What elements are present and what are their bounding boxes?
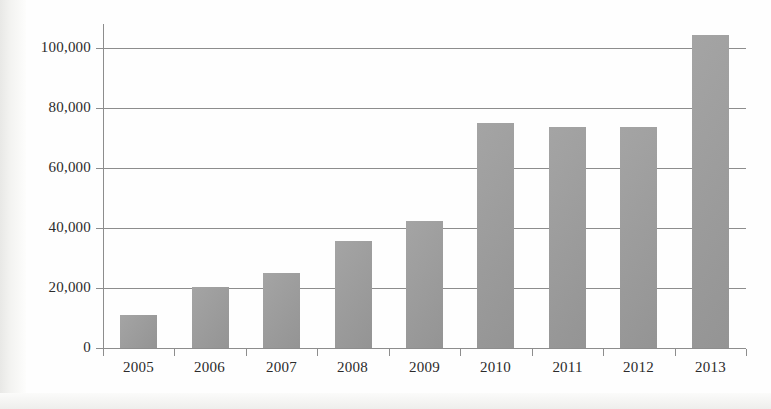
y-axis-tick bbox=[96, 48, 104, 49]
bar-2008 bbox=[335, 241, 372, 348]
bar-2007 bbox=[263, 273, 300, 348]
y-axis-label: 40,000 bbox=[1, 220, 91, 235]
bar-2006 bbox=[192, 287, 229, 348]
y-axis-label: 100,000 bbox=[1, 40, 91, 55]
y-axis-tick bbox=[96, 288, 104, 289]
x-axis-label-2006: 2006 bbox=[174, 360, 245, 375]
gridline bbox=[103, 48, 746, 49]
y-axis-label: 20,000 bbox=[1, 280, 91, 295]
y-axis-tick bbox=[96, 168, 104, 169]
x-axis-label-2008: 2008 bbox=[317, 360, 388, 375]
bar-2009 bbox=[406, 221, 443, 348]
x-axis-tick bbox=[317, 349, 318, 356]
x-axis-tick bbox=[389, 349, 390, 356]
x-axis-tick bbox=[174, 349, 175, 356]
bar-2005 bbox=[120, 315, 157, 348]
y-axis-label: 60,000 bbox=[1, 160, 91, 175]
y-axis-tick bbox=[96, 108, 104, 109]
x-axis-tick bbox=[246, 349, 247, 356]
x-axis-tick bbox=[532, 349, 533, 356]
y-axis-label: 80,000 bbox=[1, 100, 91, 115]
y-axis-label: 0 bbox=[1, 340, 91, 355]
y-axis-line bbox=[103, 24, 104, 349]
chart-page: 020,00040,00060,00080,000100,000 2005200… bbox=[0, 0, 771, 409]
x-axis-label-2005: 2005 bbox=[103, 360, 174, 375]
x-axis-label-2011: 2011 bbox=[532, 360, 603, 375]
x-axis-tick bbox=[746, 349, 747, 356]
y-axis-tick bbox=[96, 228, 104, 229]
x-axis-tick bbox=[675, 349, 676, 356]
bar-2011 bbox=[549, 127, 586, 348]
x-axis-tick bbox=[460, 349, 461, 356]
bar-chart-plot-area: 020,00040,00060,00080,000100,000 2005200… bbox=[0, 0, 771, 409]
bar-2013 bbox=[692, 35, 729, 348]
bar-2012 bbox=[620, 127, 657, 348]
x-axis-label-2009: 2009 bbox=[389, 360, 460, 375]
x-axis-label-2010: 2010 bbox=[460, 360, 531, 375]
bar-2010 bbox=[477, 123, 514, 348]
gridline bbox=[103, 108, 746, 109]
x-axis-label-2013: 2013 bbox=[675, 360, 746, 375]
x-axis-label-2007: 2007 bbox=[246, 360, 317, 375]
x-axis-tick bbox=[603, 349, 604, 356]
x-axis-line bbox=[103, 348, 746, 349]
x-axis-label-2012: 2012 bbox=[603, 360, 674, 375]
x-axis-tick bbox=[103, 349, 104, 356]
